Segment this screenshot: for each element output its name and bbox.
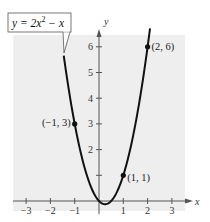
x-tick-label: −2: [45, 205, 56, 216]
x-tick-label: −1: [69, 205, 80, 216]
x-tick-label: 2: [145, 205, 150, 216]
x-tick-label: 3: [169, 205, 174, 216]
y-tick-label: 5: [88, 67, 93, 78]
data-point: [145, 44, 150, 49]
point-label: (−1, 3): [42, 117, 71, 129]
y-axis-arrow-icon: [97, 29, 102, 37]
point-label: (2, 6): [152, 41, 175, 53]
x-axis-label: x: [194, 196, 200, 207]
y-tick-label: 6: [88, 41, 93, 52]
x-tick-label: 1: [121, 205, 126, 216]
x-axis-arrow-icon: [185, 199, 193, 204]
x-tick-label: −3: [21, 205, 32, 216]
data-point: [72, 121, 77, 126]
y-tick-label: 4: [88, 93, 93, 104]
equation-label: y = 2x2 − x: [11, 15, 65, 30]
point-label: (1, 1): [127, 172, 150, 184]
y-tick-label: 2: [88, 144, 93, 155]
y-axis-label: y: [103, 16, 109, 27]
y-tick-label: 3: [88, 118, 93, 129]
eq-rhs: − x: [45, 17, 65, 29]
chart-canvas: x −3−2−1123 y 23456 (−1, 3)(1, 1)(2, 6) …: [0, 0, 210, 222]
eq-lhs: y = 2x: [11, 17, 42, 30]
data-point: [121, 173, 126, 178]
